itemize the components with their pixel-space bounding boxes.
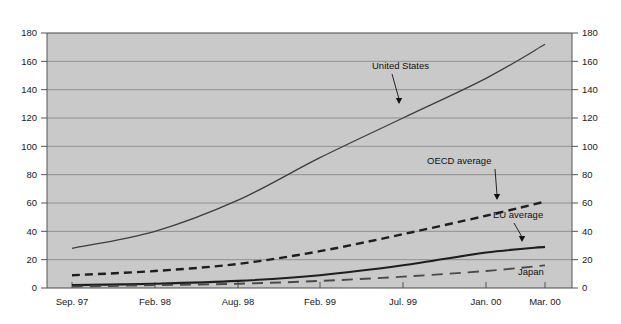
annotation-label-united-states: United States: [372, 60, 429, 71]
left-axis-tick-label: 40: [26, 226, 37, 237]
chart-figure: 020406080100120140160180 020406080100120…: [0, 0, 621, 324]
left-axis-tick-label: 120: [21, 112, 37, 123]
x-axis-tick-label: Sep. 97: [56, 296, 89, 307]
right-axis-ticks-group: [572, 33, 578, 288]
left-axis-tick-label: 140: [21, 84, 37, 95]
left-axis-tick-labels: 020406080100120140160180: [21, 27, 37, 293]
right-axis-tick-label: 180: [582, 27, 598, 38]
right-axis-tick-label: 60: [582, 197, 593, 208]
x-axis-tick-label: Feb. 98: [139, 296, 171, 307]
left-axis-tick-label: 0: [32, 282, 37, 293]
x-axis-tick-label: Jan. 00: [470, 296, 501, 307]
left-axis-tick-label: 100: [21, 141, 37, 152]
left-axis-tick-label: 60: [26, 197, 37, 208]
right-axis-tick-label: 80: [582, 169, 593, 180]
x-axis-tick-label: Mar. 00: [529, 296, 561, 307]
plot-background-group: [47, 33, 572, 288]
annotation-label-oecd-average: OECD average: [427, 155, 491, 166]
line-chart-canvas: 020406080100120140160180 020406080100120…: [0, 0, 621, 324]
right-axis-tick-labels: 020406080100120140160180: [582, 27, 598, 293]
left-axis-ticks-group: [41, 33, 47, 288]
annotation-label-eu-average: EU average: [493, 209, 543, 220]
right-axis-tick-label: 120: [582, 112, 598, 123]
left-axis-tick-label: 80: [26, 169, 37, 180]
right-axis-tick-label: 140: [582, 84, 598, 95]
right-axis-tick-label: 40: [582, 226, 593, 237]
left-axis-tick-label: 20: [26, 254, 37, 265]
right-axis-tick-label: 0: [582, 282, 587, 293]
right-axis-tick-label: 100: [582, 141, 598, 152]
right-axis-tick-label: 20: [582, 254, 593, 265]
right-axis-tick-label: 160: [582, 56, 598, 67]
left-axis-tick-label: 180: [21, 27, 37, 38]
x-axis-tick-label: Aug. 98: [222, 296, 255, 307]
x-axis-tick-labels: Sep. 97Feb. 98Aug. 98Feb. 99Jul. 99Jan. …: [56, 296, 561, 307]
annotation-label-japan: Japan: [518, 266, 544, 277]
x-axis-tick-label: Jul. 99: [389, 296, 417, 307]
plot-background: [47, 33, 572, 288]
x-axis-tick-label: Feb. 99: [304, 296, 336, 307]
left-axis-tick-label: 160: [21, 56, 37, 67]
